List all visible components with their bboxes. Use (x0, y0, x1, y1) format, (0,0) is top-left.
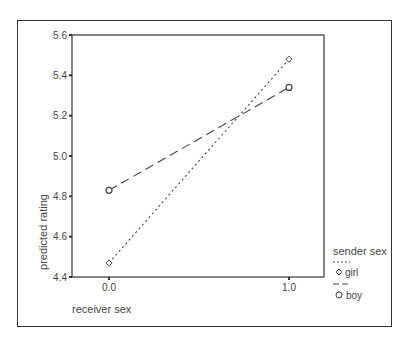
legend-item-girl: girl (345, 267, 358, 278)
x-tick-label: 0.0 (102, 282, 116, 293)
x-axis-title: receiver sex (72, 303, 132, 315)
y-tick-label: 4.8 (53, 191, 67, 202)
data-point-boy (106, 187, 112, 193)
x-tick-label: 1.0 (282, 282, 296, 293)
data-point-girl (106, 260, 112, 266)
y-tick-label: 5.6 (53, 30, 67, 41)
series-line-girl (109, 59, 289, 263)
plot-area (72, 35, 324, 277)
legend-title: sender sex (333, 245, 387, 257)
plot-frame (72, 35, 324, 277)
x-axis: 0.01.0 (102, 277, 296, 293)
y-tick-label: 5.4 (53, 70, 67, 81)
y-axis-title: predicted rating (37, 194, 49, 270)
line-chart: 4.44.64.85.05.25.45.6 0.01.0 predicted r… (0, 0, 407, 344)
y-axis: 4.44.64.85.05.25.45.6 (53, 30, 72, 283)
series-line-boy (109, 87, 289, 190)
data-point-girl (286, 56, 292, 62)
y-tick-label: 5.2 (53, 110, 67, 121)
y-tick-label: 4.6 (53, 231, 67, 242)
y-tick-label: 4.4 (53, 272, 67, 283)
legend-boy-circle-icon (336, 292, 342, 298)
legend-item-boy: boy (346, 290, 362, 301)
data-point-boy (286, 84, 292, 90)
legend-girl-diamond-icon (336, 269, 342, 275)
legend: sender sex girl boy (333, 245, 387, 301)
series-group (106, 56, 292, 266)
y-tick-label: 5.0 (53, 151, 67, 162)
